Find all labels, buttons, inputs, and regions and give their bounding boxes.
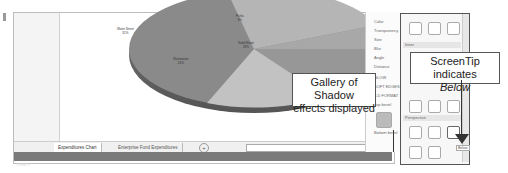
callout-screentip: ScreenTip indicatesBelow [410, 52, 500, 84]
shadow-thumb[interactable] [447, 100, 460, 113]
worksheet-left-area [14, 13, 60, 141]
shadow-thumb[interactable] [428, 146, 441, 159]
section-inner: Inner [403, 42, 461, 48]
panel-3d-format[interactable]: 3-D FORMAT [374, 93, 398, 98]
label-solid-waste: Solid Waste28% [238, 41, 254, 49]
row-marker [3, 13, 6, 21]
tab-expenditures-chart[interactable]: Expenditures Chart [54, 143, 102, 152]
panel-distance[interactable]: Distance [374, 64, 390, 69]
shadow-thumb[interactable] [409, 146, 422, 159]
panel-blur[interactable]: Blur [374, 46, 381, 51]
horizontal-scrollbar[interactable] [246, 144, 378, 152]
status-mode: READY [14, 162, 31, 167]
shadow-thumb[interactable] [447, 22, 460, 35]
status-bar: READY [14, 152, 392, 161]
screentip: Below [456, 145, 470, 151]
panel-size[interactable]: Size [374, 37, 382, 42]
shadow-thumb[interactable] [409, 22, 422, 35]
panel-soft-edges[interactable]: SOFT EDGES [374, 84, 400, 89]
panel-top-bevel[interactable]: Top bevel [374, 102, 391, 107]
arrowhead-icon [455, 134, 469, 144]
shadow-thumb[interactable] [409, 126, 422, 139]
shadow-thumb[interactable] [409, 100, 422, 113]
panel-angle[interactable]: Angle [374, 55, 384, 60]
callout-arrow [461, 80, 462, 138]
panel-divider [393, 130, 394, 152]
label-wastewater: Wastewater24% [173, 57, 189, 65]
shadow-thumb[interactable] [428, 22, 441, 35]
label-water-street: Water Street31% [117, 27, 134, 35]
section-perspective: Perspective [403, 115, 461, 121]
callout-gallery: Gallery of Shadoweffects displayed [292, 73, 376, 107]
shadow-thumb[interactable] [428, 126, 441, 139]
tab-enterprise-fund[interactable]: Enterprise Fund Expenditures [114, 143, 183, 152]
panel-color[interactable]: Color [374, 19, 384, 24]
bevel-swatch[interactable] [376, 112, 392, 128]
shadow-thumb[interactable] [428, 100, 441, 113]
panel-transparency[interactable]: Transparency [374, 28, 398, 33]
label-parks: Parks8% [236, 14, 244, 22]
